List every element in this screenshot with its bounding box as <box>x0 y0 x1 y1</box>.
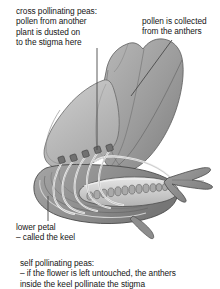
cross-pollinating-caption: cross pollinating peas: pollen from anot… <box>16 6 97 48</box>
diagram-canvas: cross pollinating peas: pollen from anot… <box>0 0 220 289</box>
self-pollinating-caption: self pollinating peas: – if the flower i… <box>20 258 176 289</box>
pollen-collected-caption: pollen is collected from the anthers <box>142 16 207 37</box>
lower-petal-caption: lower petal – called the keel <box>16 222 75 243</box>
